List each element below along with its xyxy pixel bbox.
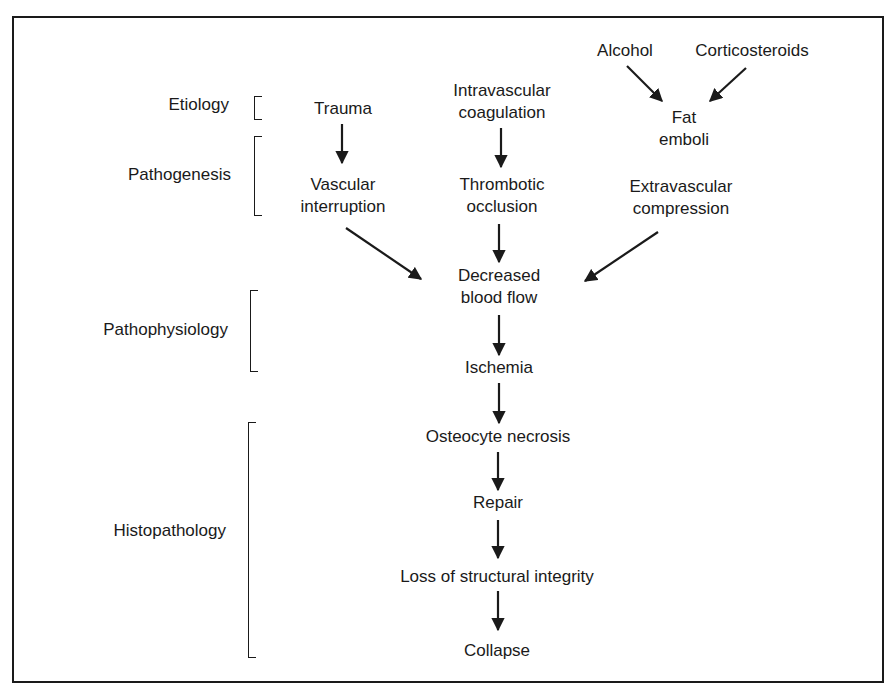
node-text-line: occlusion (459, 196, 544, 218)
arrow-extravascular-decreased (585, 232, 658, 281)
bracket-pathophysiology (250, 290, 258, 372)
node-repair: Repair (473, 492, 523, 514)
node-text-line: Fat (659, 107, 709, 129)
node-loss-of-structural-integrity: Loss of structural integrity (400, 566, 594, 588)
node-vascular-interruption: Vascular interruption (300, 174, 385, 218)
node-text-line: Intravascular (453, 80, 550, 102)
node-decreased-blood-flow: Decreased blood flow (458, 265, 540, 309)
arrow-corticosteroids-fat (710, 68, 746, 101)
node-text-line: Thrombotic (459, 174, 544, 196)
node-text-line: blood flow (458, 287, 540, 309)
node-thrombotic-occlusion: Thrombotic occlusion (459, 174, 544, 218)
node-extravascular-compression: Extravascular compression (630, 176, 733, 220)
arrows-layer (0, 0, 892, 694)
node-text-line: Vascular (300, 174, 385, 196)
node-intravascular-coagulation: Intravascular coagulation (453, 80, 550, 124)
node-text-line: coagulation (453, 102, 550, 124)
stage-pathogenesis: Pathogenesis (128, 164, 231, 186)
node-text-line: interruption (300, 196, 385, 218)
stage-pathophysiology: Pathophysiology (103, 319, 228, 341)
node-text-line: Extravascular (630, 176, 733, 198)
node-corticosteroids: Corticosteroids (695, 40, 808, 62)
node-ischemia: Ischemia (465, 357, 533, 379)
arrow-vascular-decreased (346, 228, 421, 279)
bracket-etiology (254, 96, 262, 120)
node-text-line: emboli (659, 129, 709, 151)
stage-histopathology: Histopathology (114, 520, 226, 542)
node-collapse: Collapse (464, 640, 530, 662)
node-text-line: compression (630, 198, 733, 220)
node-alcohol: Alcohol (597, 40, 653, 62)
bracket-pathogenesis (254, 136, 262, 216)
arrow-alcohol-fat (627, 66, 662, 101)
bracket-histopathology (248, 422, 256, 658)
node-text-line: Decreased (458, 265, 540, 287)
node-osteocyte-necrosis: Osteocyte necrosis (426, 426, 571, 448)
stage-etiology: Etiology (169, 94, 229, 116)
node-fat-emboli: Fat emboli (659, 107, 709, 151)
node-trauma: Trauma (314, 98, 372, 120)
